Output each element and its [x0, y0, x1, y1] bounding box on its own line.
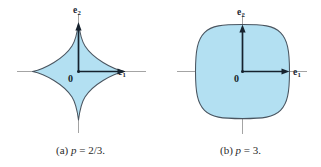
squircle-plot — [160, 0, 321, 167]
caption-b-variable: p — [236, 144, 242, 156]
origin-point — [241, 70, 244, 73]
panel-astroid: e1 e2 0 (a) p = 2/3. — [0, 0, 161, 167]
e1-label-subscript: 1 — [297, 71, 300, 78]
panel-a-caption: (a) p = 2/3. — [0, 145, 161, 156]
caption-a-value: 2/3. — [88, 144, 105, 156]
e1-axis-label: e1 — [118, 68, 126, 78]
caption-b-prefix: (b) — [220, 144, 233, 156]
caption-a-prefix: (a) — [56, 144, 68, 156]
figure-container: e1 e2 0 (a) p = 2/3. e1 — [0, 0, 321, 167]
panel-squircle: e1 e2 0 (b) p = 3. — [160, 0, 321, 167]
e2-axis-label: e2 — [73, 6, 81, 16]
origin-point — [77, 70, 80, 73]
caption-a-variable: p — [71, 144, 77, 156]
caption-b-value: 3. — [253, 144, 261, 156]
caption-b-equals: = — [244, 144, 250, 156]
e2-axis-label: e2 — [237, 8, 245, 18]
e2-label-subscript: 2 — [77, 9, 80, 16]
e2-label-subscript: 2 — [241, 11, 244, 18]
e1-label-subscript: 1 — [122, 71, 125, 78]
e1-axis-label: e1 — [293, 68, 301, 78]
e2-arrowhead-icon — [75, 23, 81, 31]
astroid-plot — [0, 0, 161, 167]
origin-label: 0 — [68, 74, 73, 84]
origin-label: 0 — [234, 74, 239, 84]
caption-a-equals: = — [79, 144, 85, 156]
panel-b-caption: (b) p = 3. — [160, 145, 321, 156]
